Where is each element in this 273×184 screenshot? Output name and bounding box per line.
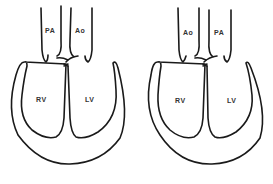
right-artery-outer-wall xyxy=(85,8,92,62)
label-pulmonary-artery: PA xyxy=(45,27,55,34)
right-artery-outer-wall xyxy=(224,10,231,62)
label-aorta: Ao xyxy=(183,29,193,36)
heart-diagrams xyxy=(0,0,273,184)
right-artery-inner-wall xyxy=(204,10,217,62)
label-left-ventricle: LV xyxy=(227,97,236,104)
left-artery-inner-wall xyxy=(57,6,68,60)
ventricle-outline xyxy=(11,62,124,164)
septum-crossing xyxy=(203,64,207,66)
septum-crossing xyxy=(64,64,68,66)
diagram-normal xyxy=(11,6,124,164)
right-artery-inner-wall xyxy=(66,8,78,62)
ventricle-outline xyxy=(148,62,262,164)
label-right-ventricle: RV xyxy=(175,97,186,104)
left-artery-outer-wall xyxy=(41,8,48,62)
label-aorta: Ao xyxy=(75,27,85,34)
label-left-ventricle: LV xyxy=(85,96,94,103)
label-right-ventricle: RV xyxy=(36,96,47,103)
left-artery-inner-wall xyxy=(195,8,206,60)
label-pulmonary-artery: PA xyxy=(214,29,224,36)
diagram-transposed xyxy=(148,8,262,164)
